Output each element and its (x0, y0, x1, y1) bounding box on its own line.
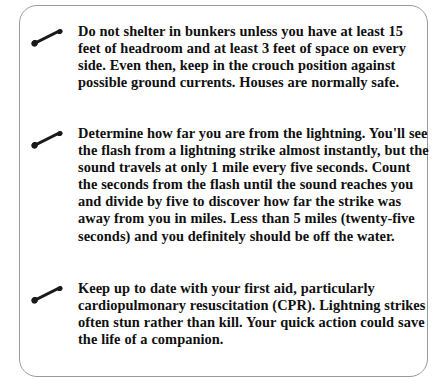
list-item: Keep up to date with your first aid, par… (29, 280, 429, 348)
lightning-bolt-dash-bullet-icon (29, 26, 67, 48)
list-item: Do not shelter in bunkers unless you hav… (29, 23, 429, 91)
tip-list: Do not shelter in bunkers unless you hav… (20, 6, 429, 378)
page-root: Do not shelter in bunkers unless you hav… (0, 0, 447, 390)
tip-text: Keep up to date with your first aid, par… (29, 280, 429, 348)
lightning-bolt-dash-bullet-icon (29, 283, 67, 305)
tip-text: Do not shelter in bunkers unless you hav… (29, 23, 429, 91)
tip-callout-box: Do not shelter in bunkers unless you hav… (19, 5, 428, 377)
lightning-bolt-dash-bullet-icon (29, 128, 67, 150)
tip-text: Determine how far you are from the light… (29, 125, 429, 245)
list-item: Determine how far you are from the light… (29, 125, 429, 245)
